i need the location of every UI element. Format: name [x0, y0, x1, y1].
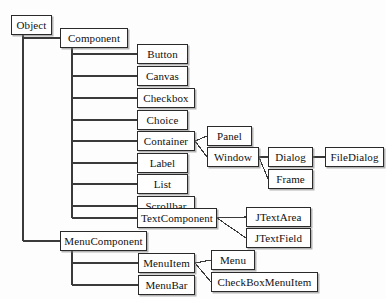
class-node-jtextfield[interactable]: JTextField [246, 228, 311, 248]
class-node-label: FileDialog [330, 151, 378, 162]
class-node-menubar[interactable]: MenuBar [138, 275, 195, 295]
class-node-menuitem[interactable]: MenuItem [138, 253, 195, 273]
class-node-component[interactable]: Component [60, 28, 128, 48]
class-node-frame[interactable]: Frame [268, 169, 313, 189]
class-node-textcomponent[interactable]: TextComponent [137, 208, 217, 228]
class-node-label: List [154, 178, 172, 189]
edge-window-to-frame [259, 157, 268, 179]
class-node-label: Component [68, 32, 120, 43]
edge-container-to-window [195, 141, 207, 157]
class-node-label: MenuBar [145, 279, 187, 290]
class-node-label: JTextArea [256, 211, 302, 222]
class-node-object[interactable]: Object [11, 15, 52, 35]
class-node-label: Container [144, 135, 188, 146]
class-node-label: Menu [220, 254, 246, 265]
class-node-checkboxmenuitem[interactable]: CheckBoxMenuItem [211, 272, 318, 292]
class-node-choice[interactable]: Choice [137, 110, 188, 130]
class-hierarchy-diagram: ObjectComponentButtonCanvasCheckboxChoic… [0, 0, 386, 299]
edge-menuitem-to-checkboxmenuitem [195, 263, 211, 282]
class-node-label: JTextField [255, 232, 302, 243]
class-node-label: Frame [276, 173, 305, 184]
class-node-label: Checkbox [143, 92, 188, 103]
class-node-panel[interactable]: Panel [207, 126, 252, 146]
class-node-label: TextComponent [141, 212, 213, 223]
class-node-label: Object [17, 19, 47, 30]
class-node-label: Label [150, 157, 176, 168]
class-node-button[interactable]: Button [137, 44, 188, 64]
class-node-label: Dialog [275, 151, 306, 162]
class-node-label: Panel [217, 130, 242, 141]
class-node-canvas[interactable]: Canvas [137, 66, 188, 86]
class-node-menucomponent[interactable]: MenuComponent [60, 231, 147, 251]
class-node-window[interactable]: Window [207, 147, 259, 167]
class-node-label: Canvas [146, 70, 179, 81]
class-node-list[interactable]: List [137, 174, 188, 194]
class-node-label: Choice [147, 114, 179, 125]
class-node-checkbox[interactable]: Checkbox [137, 88, 195, 108]
class-node-label: MenuComponent [64, 235, 142, 246]
class-node-menu[interactable]: Menu [211, 250, 255, 270]
class-node-filedialog[interactable]: FileDialog [325, 147, 384, 167]
class-node-label: CheckBoxMenuItem [218, 276, 312, 287]
edge-textcomponent-to-jtextfield [217, 218, 246, 238]
edge-container-to-panel [195, 136, 207, 141]
class-node-label: Window [214, 151, 252, 162]
class-node-jtextarea[interactable]: JTextArea [246, 207, 311, 227]
class-node-label: Button [147, 48, 178, 59]
edge-menuitem-to-menu [195, 260, 211, 263]
class-node-container[interactable]: Container [137, 131, 195, 151]
class-node-dialog[interactable]: Dialog [268, 147, 313, 167]
class-node-label[interactable]: Label [137, 153, 188, 173]
edge-textcomponent-to-jtextarea [217, 217, 246, 218]
class-node-label: MenuItem [143, 257, 190, 268]
